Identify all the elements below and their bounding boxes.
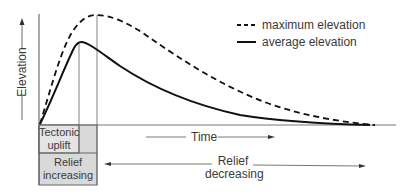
relief-decreasing-label: Relief decreasing (205, 155, 261, 181)
tectonic-uplift-label: Tectonic uplift (39, 126, 79, 152)
y-axis-label: Elevation (16, 45, 28, 99)
legend-max-label: maximum elevation (262, 19, 365, 31)
average-elevation-curve (40, 42, 370, 125)
x-axis-label: Time (191, 131, 217, 143)
relief-increasing-label: Relief increasing (39, 156, 97, 182)
legend-avg-label: average elevation (262, 36, 357, 48)
